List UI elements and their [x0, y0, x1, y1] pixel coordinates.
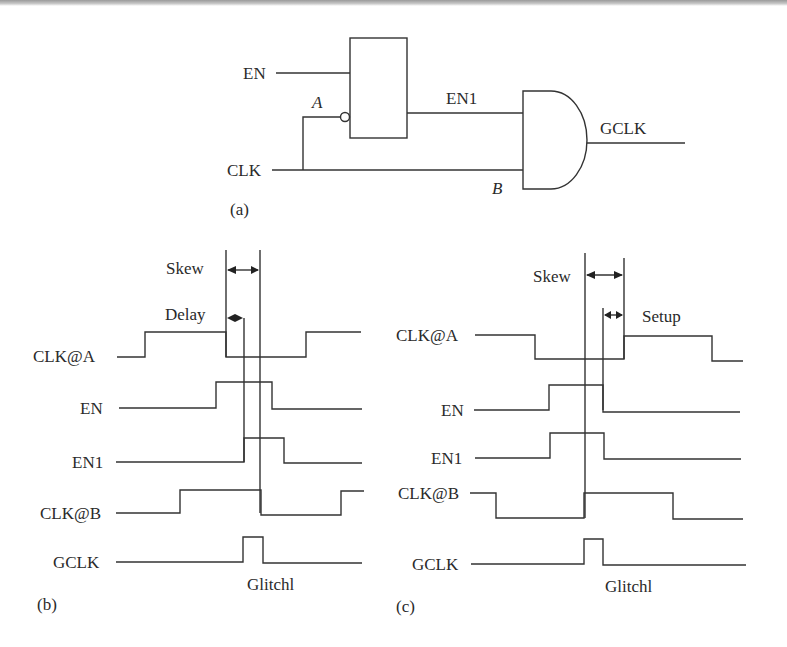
panel-b-timing: Skew Delay CLK@A EN EN1 CLK@B GCLK Glitc… — [33, 250, 364, 614]
signal-label-clk-b-c: CLK@B — [398, 484, 459, 503]
setup-arrowhead-left — [604, 311, 611, 319]
waveform-en-c — [474, 385, 740, 412]
arrowhead-right-c — [614, 271, 623, 279]
signal-label-clk-a: CLK@A — [33, 347, 96, 366]
label-delay: Delay — [165, 305, 206, 324]
label-glitch-c: Glitchl — [605, 577, 652, 596]
and-gate — [523, 91, 587, 189]
waveform-gclk-c — [471, 539, 746, 565]
inversion-bubble — [341, 113, 350, 122]
label-skew-b: Skew — [166, 259, 205, 278]
waveform-gclk — [116, 537, 362, 563]
panel-c-timing: Skew Setup CLK@A EN EN1 CLK@B GCLK Glitc… — [396, 253, 746, 616]
waveform-en — [119, 382, 362, 409]
signal-label-en: EN — [80, 399, 103, 418]
setup-arrowhead-right — [616, 311, 623, 319]
waveform-clk-b-c — [470, 493, 743, 519]
signal-label-en-c: EN — [441, 401, 464, 420]
latch-block — [350, 38, 407, 138]
wire-clk-to-a — [303, 117, 341, 170]
label-en: EN — [243, 64, 266, 83]
label-node-b: B — [492, 179, 503, 198]
waveform-clk-b — [116, 490, 364, 515]
signal-label-en1: EN1 — [72, 453, 103, 472]
clock-gating-diagram: EN A EN1 CLK B GCLK (a) Skew Delay — [0, 0, 787, 647]
delay-arrow — [227, 314, 243, 322]
arrowhead-left-c — [586, 271, 595, 279]
panel-a-circuit: EN A EN1 CLK B GCLK (a) — [227, 38, 685, 219]
signal-label-clk-b: CLK@B — [40, 504, 101, 523]
label-glitch-b: Glitchl — [247, 575, 294, 594]
label-skew-c: Skew — [533, 267, 572, 286]
label-setup: Setup — [642, 307, 681, 326]
caption-c: (c) — [396, 597, 415, 616]
label-clk: CLK — [227, 161, 262, 180]
signal-label-clk-a-c: CLK@A — [396, 326, 459, 345]
caption-a: (a) — [230, 200, 249, 219]
signal-label-gclk-c: GCLK — [412, 555, 459, 574]
label-en1: EN1 — [446, 89, 477, 108]
label-gclk: GCLK — [600, 119, 647, 138]
signal-label-en1-c: EN1 — [431, 449, 462, 468]
caption-b: (b) — [37, 595, 57, 614]
arrowhead-right — [251, 266, 259, 274]
waveform-clk-a-c — [475, 335, 743, 361]
waveform-en1-c — [475, 433, 741, 459]
label-node-a: A — [311, 93, 323, 112]
waveform-clk-a — [117, 332, 361, 357]
arrowhead-left — [227, 266, 236, 274]
waveform-en1 — [116, 438, 362, 463]
signal-label-gclk: GCLK — [53, 553, 100, 572]
